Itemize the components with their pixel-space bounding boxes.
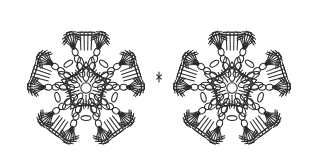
crochet-pattern-svg: [0, 0, 315, 168]
crochet-diagram-canvas: [0, 0, 315, 168]
